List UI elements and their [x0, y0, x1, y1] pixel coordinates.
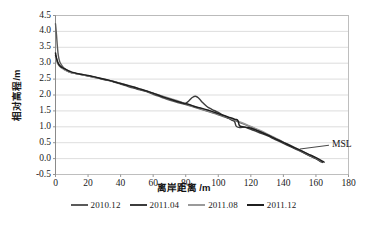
y-tick-label: 2.5	[20, 74, 51, 84]
grid-lines	[56, 16, 349, 159]
legend-label: 2010.12	[91, 200, 121, 210]
legend-line-swatch	[188, 204, 205, 206]
legend-line-swatch	[247, 204, 264, 206]
y-tick-label: 0.0	[20, 154, 51, 164]
chart-legend: 2010.122011.042011.082011.12	[0, 200, 367, 210]
legend-item[interactable]: 2010.12	[71, 200, 121, 210]
y-tick-label: 0.5	[20, 138, 51, 148]
legend-label: 2011.12	[267, 200, 297, 210]
msl-annotation-label: MSL	[332, 140, 352, 150]
y-tick-label: 4.0	[20, 26, 51, 36]
legend-label: 2011.04	[150, 200, 180, 210]
chart-figure: -0.50.00.51.01.52.02.53.03.54.04.5 02040…	[0, 0, 367, 227]
y-tick-label: 2.0	[20, 90, 51, 100]
series-line	[56, 57, 321, 160]
legend-line-swatch	[130, 204, 147, 206]
x-axis-title: 离岸距离 /m	[0, 183, 367, 193]
legend-line-swatch	[71, 204, 88, 206]
y-axis-title: 相对高程/m	[9, 57, 23, 133]
data-series-group	[56, 24, 325, 163]
y-tick-label: 4.5	[20, 11, 51, 21]
y-tick-label: 3.0	[20, 58, 51, 68]
legend-item[interactable]: 2011.12	[247, 200, 297, 210]
y-tick-label: 3.5	[20, 42, 51, 52]
series-line	[56, 53, 325, 162]
legend-label: 2011.08	[208, 200, 238, 210]
y-tick-label: 1.5	[20, 106, 51, 116]
series-line	[56, 55, 323, 162]
annotation-leader-line	[300, 145, 329, 149]
legend-item[interactable]: 2011.04	[130, 200, 180, 210]
msl-leader-line	[300, 145, 329, 149]
legend-item[interactable]: 2011.08	[188, 200, 238, 210]
y-tick-label: 1.0	[20, 122, 51, 132]
